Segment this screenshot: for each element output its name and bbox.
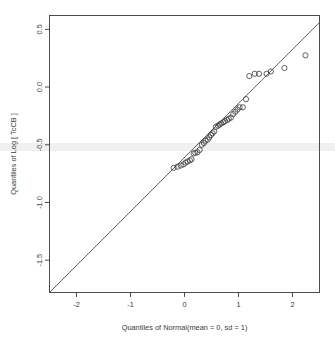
x-tick-label: 0 [182, 300, 186, 309]
scan-artifact-band [0, 143, 335, 151]
x-tick-label: -1 [127, 300, 134, 309]
x-tick-label: 2 [290, 300, 294, 309]
y-tick-label: 0.0 [35, 82, 44, 92]
y-tick-label: -1.5 [35, 254, 44, 267]
y-axis-title: Quantiles of Log [ TcCB ] [9, 113, 18, 195]
y-tick-label: -0.5 [35, 138, 44, 151]
x-tick-label: -2 [73, 300, 80, 309]
x-tick-label: 1 [236, 300, 240, 309]
qq-plot-figure: -2-1012 0.50.0-0.5-1.0-1.5 Quantiles of … [0, 0, 335, 342]
y-tick-label: 0.5 [35, 24, 44, 34]
y-tick-label: -1.0 [35, 196, 44, 209]
figure-background [0, 0, 335, 342]
plot-canvas: -2-1012 0.50.0-0.5-1.0-1.5 Quantiles of … [0, 0, 335, 342]
x-axis-title: Quantiles of Normal(mean = 0, sd = 1) [122, 323, 248, 332]
